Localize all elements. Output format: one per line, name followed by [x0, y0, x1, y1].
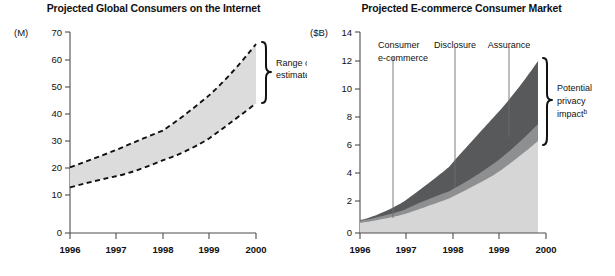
x-tick-label-1999-right: 1999	[488, 244, 509, 255]
x-tick-label-2000-left: 2000	[245, 244, 266, 255]
x-tick-label-1999-left: 1999	[198, 244, 219, 255]
x-tick-label-1998-right: 1998	[442, 244, 463, 255]
y-tick-label-8: 8	[347, 111, 352, 122]
potential-privacy-impact-label-line3-text: impact	[557, 109, 584, 119]
y-tick-label-10: 10	[51, 189, 62, 200]
chart-svg-left: (M) 70 60 50 40 30 20 10 0	[0, 0, 307, 276]
callout-consumer-ecommerce-line1: Consumer	[378, 40, 420, 50]
y-tick-label-10: 10	[341, 83, 352, 94]
callout-consumer-ecommerce-line2: e-commerce	[378, 53, 428, 63]
potential-privacy-impact-bracket	[543, 58, 552, 145]
potential-privacy-impact-superscript: b	[584, 108, 588, 115]
y-unit-label-right: ($B)	[310, 27, 328, 38]
potential-privacy-impact-label-line3: impactb	[557, 108, 588, 120]
range-of-estimates-label-line2: estimates	[276, 70, 307, 80]
y-tick-label-6: 6	[347, 139, 352, 150]
y-tick-label-30: 30	[51, 135, 62, 146]
y-tick-label-40: 40	[51, 108, 62, 119]
callout-assurance: Assurance	[488, 40, 531, 50]
range-of-estimates-label-line1: Range of	[276, 58, 307, 68]
callout-disclosure: Disclosure	[434, 40, 476, 50]
y-tick-label-12: 12	[341, 55, 352, 66]
potential-privacy-impact-label-line1: Potential	[557, 83, 592, 93]
chart-panel-global-consumers: Projected Global Consumers on the Intern…	[0, 0, 307, 276]
x-tick-label-1997-right: 1997	[395, 244, 416, 255]
chart-svg-right: ($B) 14 12 10 8 6 4 2 0	[308, 0, 615, 276]
y-tick-label-0: 0	[347, 227, 352, 238]
y-tick-label-60: 60	[51, 54, 62, 65]
y-tick-label-14: 14	[341, 27, 352, 38]
potential-privacy-impact-label-line2: privacy	[557, 96, 586, 106]
range-of-estimates-bracket	[262, 42, 271, 103]
y-tick-label-20: 20	[51, 162, 62, 173]
x-tick-label-1996-right: 1996	[349, 244, 370, 255]
chart-panel-ecommerce-market: Projected E-commerce Consumer Market ($B…	[308, 0, 615, 276]
y-tick-label-70: 70	[51, 27, 62, 38]
y-unit-label-left: (M)	[14, 27, 28, 38]
x-tick-label-1997-left: 1997	[105, 244, 126, 255]
y-tick-label-2: 2	[347, 195, 352, 206]
y-tick-label-0: 0	[57, 227, 62, 238]
x-tick-label-2000-right: 2000	[535, 244, 556, 255]
y-tick-label-50: 50	[51, 81, 62, 92]
figure-container: Projected Global Consumers on the Intern…	[0, 0, 615, 276]
x-tick-label-1998-left: 1998	[152, 244, 173, 255]
range-band-fill	[70, 44, 256, 187]
x-tick-label-1996-left: 1996	[59, 244, 80, 255]
y-tick-label-4: 4	[347, 167, 352, 178]
